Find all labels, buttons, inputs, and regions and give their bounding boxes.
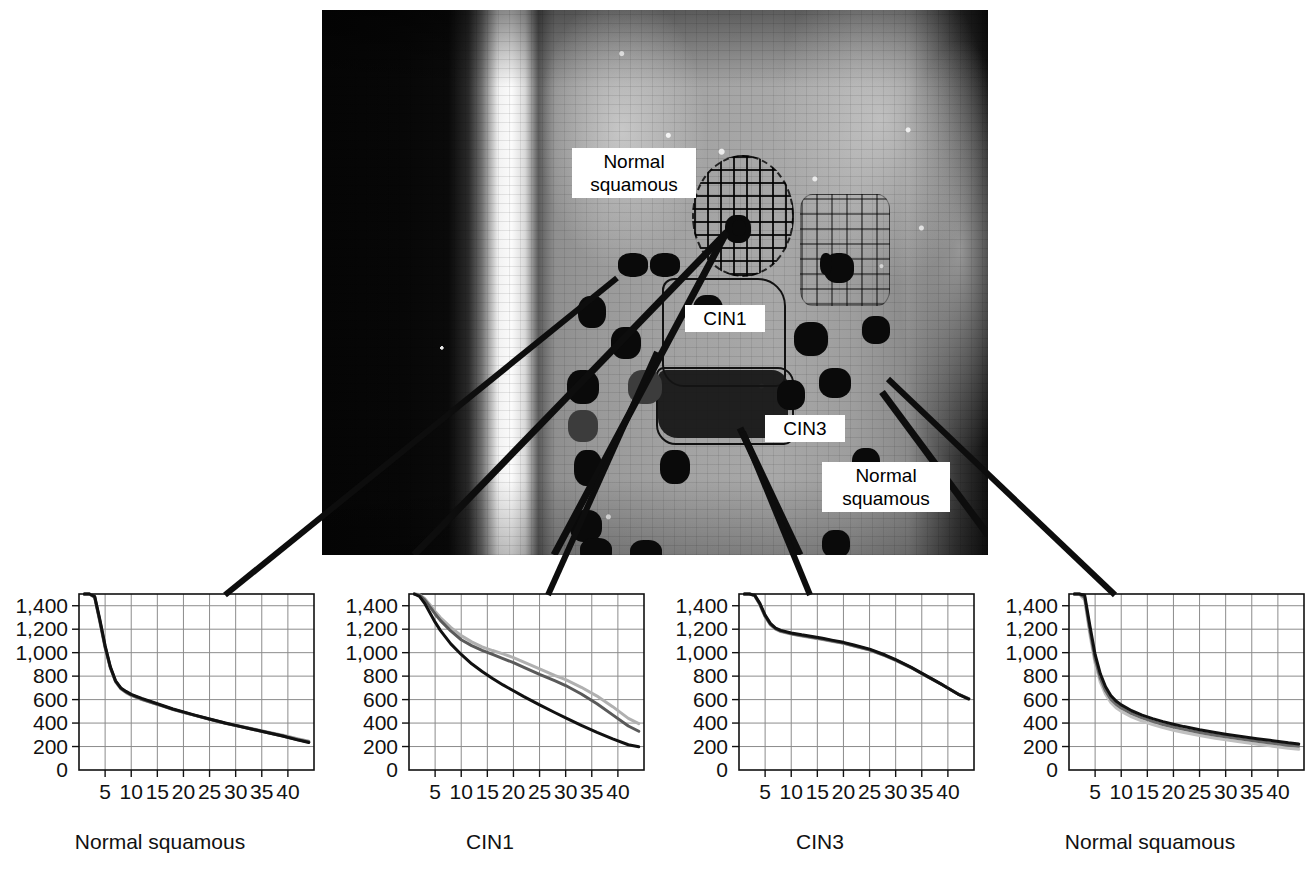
series-line-spectrum-1: [414, 594, 639, 747]
x-tick-label: 5: [99, 780, 111, 803]
x-tick-label: 10: [450, 780, 473, 803]
chart-caption: Normal squamous: [0, 830, 320, 854]
x-tick-label: 35: [1240, 780, 1263, 803]
x-tick-label: 15: [1136, 780, 1159, 803]
y-tick-label: 200: [693, 735, 728, 758]
series-line-spectrum-1: [744, 594, 969, 699]
y-tick-label: 1,200: [345, 617, 398, 640]
x-tick-label: 5: [1089, 780, 1101, 803]
series-line-spectrum-1: [1074, 594, 1299, 744]
y-tick-label: 400: [363, 711, 398, 734]
x-tick-label: 20: [1162, 780, 1185, 803]
chart-caption: CIN3: [660, 830, 980, 854]
y-tick-label: 400: [693, 711, 728, 734]
x-tick-label: 30: [554, 780, 577, 803]
series-line-spectrum-3: [414, 594, 639, 724]
y-tick-label: 200: [1023, 735, 1058, 758]
x-tick-label: 15: [146, 780, 169, 803]
series-line-spectrum-1: [84, 594, 309, 742]
label-cin1: CIN1: [685, 305, 765, 332]
x-tick-label: 15: [806, 780, 829, 803]
chart-normal-squamous-left: 51015202530354002004006008001,0001,2001,…: [0, 582, 320, 870]
x-tick-label: 40: [936, 780, 959, 803]
label-normal-squamous-bottom: Normal squamous: [822, 462, 950, 512]
x-tick-label: 40: [1266, 780, 1289, 803]
x-tick-label: 10: [1110, 780, 1133, 803]
y-tick-label: 1,400: [675, 594, 728, 617]
x-tick-label: 10: [780, 780, 803, 803]
chart-normal-squamous-right: 51015202530354002004006008001,0001,2001,…: [990, 582, 1310, 870]
x-tick-label: 35: [580, 780, 603, 803]
y-tick-label: 800: [1023, 664, 1058, 687]
y-tick-label: 1,200: [675, 617, 728, 640]
y-tick-label: 1,000: [15, 641, 68, 664]
series-line-spectrum-3: [84, 594, 309, 741]
y-tick-label: 600: [33, 688, 68, 711]
label-cin3: CIN3: [765, 415, 845, 442]
y-tick-label: 600: [1023, 688, 1058, 711]
y-tick-label: 0: [56, 758, 68, 781]
x-tick-label: 40: [606, 780, 629, 803]
x-tick-label: 15: [476, 780, 499, 803]
y-tick-label: 0: [716, 758, 728, 781]
label-normal-squamous-top: Normal squamous: [572, 148, 696, 198]
x-tick-label: 10: [120, 780, 143, 803]
x-tick-label: 30: [224, 780, 247, 803]
y-tick-label: 1,200: [15, 617, 68, 640]
series-line-spectrum-2: [84, 594, 309, 742]
y-tick-label: 600: [363, 688, 398, 711]
chart-cin3: 51015202530354002004006008001,0001,2001,…: [660, 582, 980, 870]
x-tick-label: 5: [429, 780, 441, 803]
y-tick-label: 200: [363, 735, 398, 758]
y-tick-label: 800: [693, 664, 728, 687]
tissue-micrograph: Normal squamous CIN1 CIN3 Normal squamou…: [322, 10, 988, 555]
y-tick-label: 1,000: [675, 641, 728, 664]
x-tick-label: 20: [832, 780, 855, 803]
chart-plot-area: 51015202530354002004006008001,0001,2001,…: [330, 582, 650, 832]
y-tick-label: 1,400: [1005, 594, 1058, 617]
y-tick-label: 1,000: [345, 641, 398, 664]
y-tick-label: 800: [33, 664, 68, 687]
y-tick-label: 400: [33, 711, 68, 734]
y-tick-label: 1,000: [1005, 641, 1058, 664]
y-tick-label: 1,400: [345, 594, 398, 617]
x-tick-label: 5: [759, 780, 771, 803]
y-tick-label: 1,200: [1005, 617, 1058, 640]
chart-cin1: 51015202530354002004006008001,0001,2001,…: [330, 582, 650, 870]
x-tick-label: 30: [1214, 780, 1237, 803]
chart-plot-area: 51015202530354002004006008001,0001,2001,…: [660, 582, 980, 832]
x-tick-label: 30: [884, 780, 907, 803]
chart-plot-area: 51015202530354002004006008001,0001,2001,…: [990, 582, 1310, 832]
x-tick-label: 20: [502, 780, 525, 803]
y-tick-label: 0: [386, 758, 398, 781]
chart-caption: CIN1: [330, 830, 650, 854]
x-tick-label: 35: [250, 780, 273, 803]
y-tick-label: 600: [693, 688, 728, 711]
x-tick-label: 40: [276, 780, 299, 803]
chart-caption: Normal squamous: [990, 830, 1310, 854]
y-tick-label: 200: [33, 735, 68, 758]
y-tick-label: 800: [363, 664, 398, 687]
x-tick-label: 25: [858, 780, 881, 803]
x-tick-label: 35: [910, 780, 933, 803]
y-tick-label: 0: [1046, 758, 1058, 781]
y-tick-label: 1,400: [15, 594, 68, 617]
y-tick-label: 400: [1023, 711, 1058, 734]
x-tick-label: 25: [198, 780, 221, 803]
x-tick-label: 25: [1188, 780, 1211, 803]
x-tick-label: 25: [528, 780, 551, 803]
chart-plot-area: 51015202530354002004006008001,0001,2001,…: [0, 582, 320, 832]
x-tick-label: 20: [172, 780, 195, 803]
